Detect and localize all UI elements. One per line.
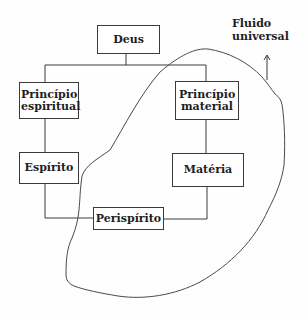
node-principio-material: Princípio material [175,81,239,120]
node-espirito: Espírito [19,152,79,184]
node-deus: Deus [97,25,160,54]
annotation-line-2: universal [232,30,302,43]
node-principio-espiritual: Princípio espiritual [19,82,79,119]
node-materia-label: Matéria [184,164,233,176]
node-perispirito-label: Perispírito [96,213,161,225]
node-principio-material-label: Princípio material [179,89,235,113]
node-principio-espiritual-label: Princípio espiritual [21,89,77,113]
node-espirito-label: Espírito [25,162,74,174]
connector-espirito-perispirito [45,183,93,218]
node-perispirito: Perispírito [93,207,164,230]
node-deus-label: Deus [113,34,144,46]
node-materia: Matéria [172,153,244,187]
annotation-line-1: Fluido [232,17,302,30]
connector-materia-perispirito [163,186,207,219]
fluido-universal-annotation: Fluido universal [232,17,302,43]
diagram-canvas: Deus Princípio espiritual Princípio mate… [0,0,308,314]
